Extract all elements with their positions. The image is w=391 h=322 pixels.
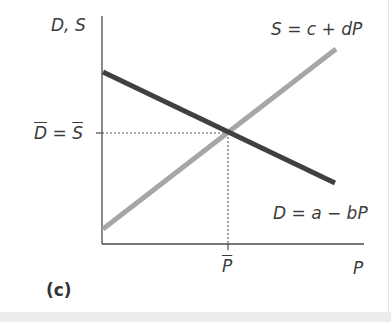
equilibrium-price-label: P: [222, 258, 232, 275]
supply-curve: [103, 49, 336, 229]
frame-right-border: [388, 0, 389, 312]
supply-equation-label: S = c + dP: [271, 21, 362, 38]
frame-bottom-band: [0, 312, 391, 322]
demand-curve: [103, 72, 335, 183]
supply-demand-figure: D, S D = S S = c + dP D = a − bP P P (c): [0, 0, 391, 322]
chart-canvas: [0, 0, 391, 322]
demand-equation-label: D = a − bP: [273, 205, 368, 222]
y-axis-label: D, S: [51, 17, 86, 34]
equals-sign: =: [47, 123, 72, 143]
s-bar: S: [72, 123, 83, 143]
d-bar: D: [34, 123, 47, 143]
x-axis-label: P: [353, 260, 363, 277]
equilibrium-quantity-label: D = S: [34, 125, 83, 142]
panel-label: (c): [46, 282, 72, 299]
